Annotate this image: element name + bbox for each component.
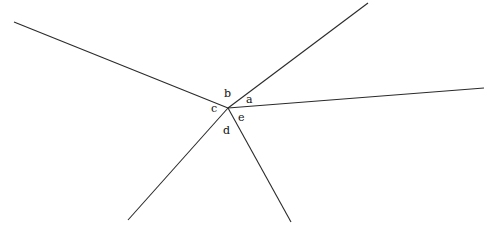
angle-label-a: a bbox=[246, 93, 253, 106]
ray-lower-left bbox=[128, 108, 228, 220]
angle-label-e: e bbox=[238, 111, 245, 124]
rays-group bbox=[14, 3, 484, 222]
angle-label-d: d bbox=[223, 124, 230, 137]
angle-label-b: b bbox=[224, 87, 231, 100]
angle-labels-group: a b c d e bbox=[211, 87, 253, 137]
angle-label-c: c bbox=[211, 102, 217, 115]
ray-right bbox=[228, 88, 484, 108]
angles-diagram: a b c d e bbox=[0, 0, 492, 240]
ray-lower bbox=[228, 108, 291, 222]
ray-upper-left bbox=[14, 22, 228, 108]
